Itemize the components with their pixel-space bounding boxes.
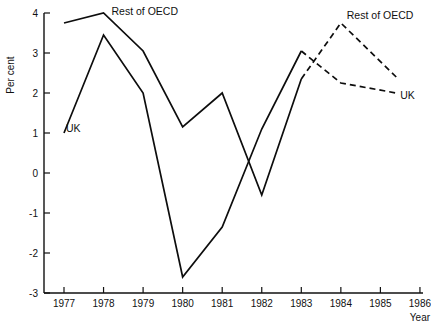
series-lines (64, 13, 396, 277)
x-tick-label: 1980 (172, 298, 195, 309)
chart-canvas: 43210-1-2-3 1977197819791980198119821983… (0, 0, 431, 330)
x-tick-label: 1981 (211, 298, 234, 309)
y-tick-label: -3 (29, 288, 38, 299)
series-rest-of-oecd-solid (64, 13, 301, 195)
y-axis-title: Per cent (5, 56, 16, 93)
line-chart: 43210-1-2-3 1977197819791980198119821983… (0, 0, 431, 330)
x-axis-title: Year (410, 312, 431, 323)
x-tick-label: 1982 (251, 298, 274, 309)
y-tick-label: 2 (32, 88, 38, 99)
x-tick-label: 1977 (53, 298, 76, 309)
y-tick-label: 3 (32, 48, 38, 59)
series-label-uk: UK (400, 89, 415, 101)
y-tick-label: -2 (29, 248, 38, 259)
series-label-rest-of-oecd: Rest of OECD (347, 9, 414, 21)
x-tick-label: 1986 (409, 298, 431, 309)
series-rest-of-oecd-dashed (301, 23, 396, 79)
y-axis: 43210-1-2-3 (29, 8, 50, 299)
x-tick-label: 1984 (330, 298, 353, 309)
series-uk-dashed (301, 51, 396, 93)
series-label-uk: UK (66, 122, 81, 134)
y-tick-label: 4 (32, 8, 38, 19)
x-tick-label: 1985 (369, 298, 392, 309)
x-tick-label: 1979 (132, 298, 155, 309)
x-tick-label: 1978 (92, 298, 115, 309)
x-tick-label: 1983 (290, 298, 313, 309)
x-axis: 1977197819791980198119821983198419851986 (44, 287, 431, 309)
y-tick-label: -1 (29, 208, 38, 219)
series-uk-solid (64, 35, 301, 277)
series-label-rest-of-oecd: Rest of OECD (111, 5, 178, 17)
y-tick-label: 0 (32, 168, 38, 179)
series-annotations: Rest of OECDUKRest of OECDUK (66, 5, 415, 134)
y-tick-label: 1 (32, 128, 38, 139)
